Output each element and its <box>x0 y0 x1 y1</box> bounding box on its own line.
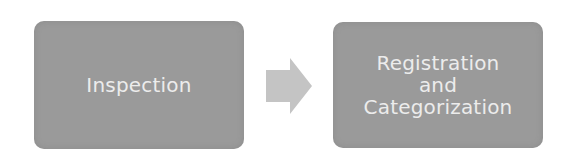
right-arrow-icon <box>264 58 314 114</box>
node-registration-and-categorization: Registration and Categorization <box>333 22 543 148</box>
node-label-line: Categorization <box>364 96 513 118</box>
node-inspection: Inspection <box>34 21 244 149</box>
node-label: Inspection <box>86 74 191 96</box>
node-label-line: and <box>364 74 513 96</box>
node-label-line: Registration <box>364 52 513 74</box>
